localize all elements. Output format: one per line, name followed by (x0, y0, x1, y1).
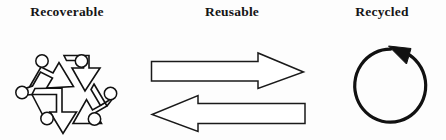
loop-arc (355, 49, 426, 122)
recovery-reuse-recycle-figure: Recoverable (0, 0, 446, 140)
arrow-right (152, 53, 304, 89)
recycling-triangle-symbol (10, 40, 130, 136)
panel-label-reusable: Reusable (152, 4, 312, 20)
panel-recycled: Recycled (310, 0, 446, 140)
circular-arrow-loop (338, 36, 438, 140)
symbol-node-circle (16, 86, 28, 98)
panel-label-recoverable: Recoverable (0, 4, 142, 20)
symbol-node-circle (41, 112, 53, 124)
panel-reusable: Reusable (150, 0, 310, 140)
symbol-node-circle (88, 113, 100, 125)
symbol-node-circle (104, 87, 116, 99)
bidirectional-arrows (150, 50, 315, 140)
arrow-left (152, 96, 305, 132)
panel-recoverable: Recoverable (0, 0, 150, 140)
loop-arrowhead (389, 46, 412, 64)
symbol-node-circle (36, 55, 48, 67)
symbol-node-circle (75, 55, 87, 67)
panel-label-recycled: Recycled (314, 4, 446, 20)
